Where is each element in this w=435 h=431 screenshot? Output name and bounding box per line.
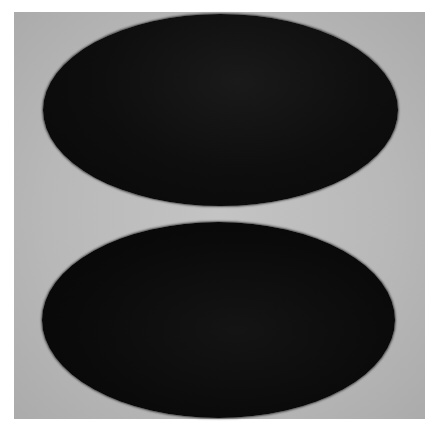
bottom-ellipse	[42, 222, 395, 418]
top-ellipse	[43, 14, 398, 206]
gray-panel	[14, 12, 425, 419]
